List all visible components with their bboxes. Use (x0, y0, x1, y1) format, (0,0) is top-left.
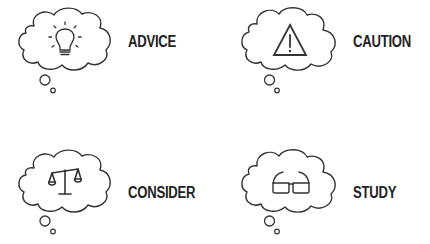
thought-item-consider: CONSIDER (0, 122, 215, 244)
reading-glasses-icon (271, 171, 311, 195)
label-advice: ADVICE (128, 34, 176, 50)
thought-cloud-icon (0, 122, 215, 244)
label-study: STUDY (353, 185, 396, 201)
warning-triangle-icon (272, 22, 308, 58)
thought-item-study: STUDY (215, 122, 430, 244)
lightbulb-icon (48, 20, 82, 60)
thought-item-caution: CAUTION (215, 0, 430, 122)
label-consider: CONSIDER (128, 185, 195, 201)
thought-cloud-icon (215, 0, 430, 122)
thought-cloud-icon (0, 0, 215, 122)
thought-cloud-icon (215, 122, 430, 244)
thought-item-advice: ADVICE (0, 0, 215, 122)
balance-scale-icon (48, 166, 82, 198)
label-caution: CAUTION (353, 34, 411, 50)
